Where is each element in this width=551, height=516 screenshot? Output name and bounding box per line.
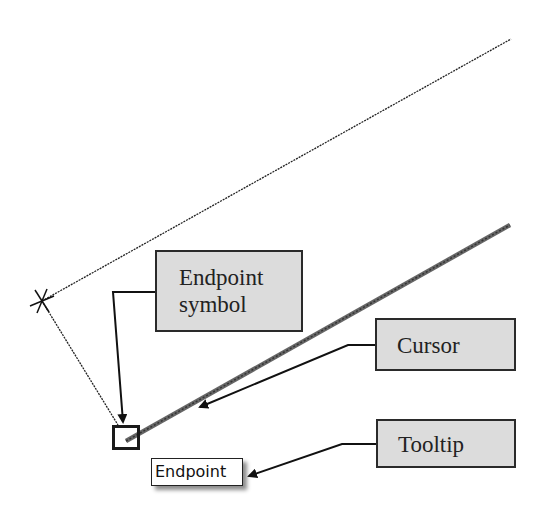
callout-tooltip-label: Tooltip: [398, 432, 464, 457]
endpoint-symbol-icon: [112, 425, 140, 450]
cursor-arrow: [200, 345, 375, 407]
callout-endpoint-line2: symbol: [179, 291, 301, 318]
callout-endpoint-line1: Endpoint: [179, 264, 301, 291]
callout-endpoint-symbol: Endpoint symbol: [155, 250, 303, 332]
intersection-marker-icon: [30, 289, 54, 313]
endpoint-tooltip: Endpoint: [151, 458, 243, 486]
endpoint-symbol-arrow: [113, 292, 155, 422]
callout-cursor-label: Cursor: [397, 333, 460, 358]
tooltip-arrow: [249, 444, 376, 476]
diagram-canvas: Endpoint symbol Cursor Tooltip Endpoint: [0, 0, 551, 516]
tooltip-text: Endpoint: [155, 462, 226, 481]
perpendicular-line: [42, 301, 118, 425]
callout-cursor: Cursor: [375, 318, 516, 371]
callout-tooltip: Tooltip: [376, 419, 516, 468]
